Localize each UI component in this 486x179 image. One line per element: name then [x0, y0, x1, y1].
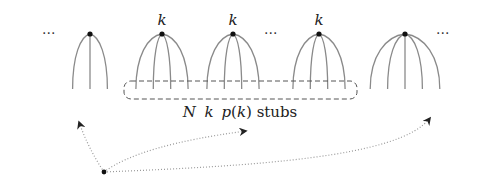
caption-p: p	[221, 103, 231, 121]
ellipsis-middle: ···	[264, 25, 277, 41]
node-dot	[230, 31, 235, 36]
node-5	[370, 31, 440, 89]
source-point	[102, 170, 107, 175]
diagram-canvas: ··· ··· ··· kkk N k p(k) stubs	[0, 0, 486, 179]
stub-group-box	[124, 81, 357, 99]
stub	[90, 34, 107, 89]
node-dot	[402, 31, 407, 36]
node-2: k	[136, 11, 188, 89]
stub	[405, 34, 422, 89]
stub	[388, 34, 405, 89]
ellipsis-left: ···	[42, 25, 55, 41]
stub-group-caption: N k p(k) stubs	[182, 103, 298, 121]
degree-label: k	[314, 11, 323, 29]
node-dot	[87, 31, 92, 36]
degree-label: k	[157, 11, 166, 29]
caption-k-inner: k	[237, 103, 246, 121]
node-4: k	[293, 11, 345, 89]
arrow-to-node-5-stubs	[104, 118, 430, 172]
node-dot	[316, 31, 321, 36]
ellipsis-right: ···	[436, 25, 449, 41]
nodes-group: kkk	[73, 11, 440, 89]
arrow-to-node-1-stubs	[79, 122, 104, 172]
node-dot	[159, 31, 164, 36]
degree-label: k	[228, 11, 237, 29]
caption-stubs: stubs	[252, 103, 297, 121]
caption-N: N	[182, 103, 197, 121]
node-3: k	[207, 11, 259, 89]
node-1	[73, 31, 108, 89]
stub	[73, 34, 90, 89]
configuration-model-diagram: ··· ··· ··· kkk N k p(k) stubs	[0, 0, 486, 179]
caption-k: k	[205, 103, 214, 121]
